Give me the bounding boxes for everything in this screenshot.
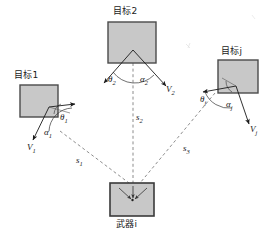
target-1-theta-label: θ1 [60, 112, 68, 124]
range-label-s2: s2 [136, 112, 143, 124]
target-j-theta-label: θj [200, 94, 206, 106]
target-2-box [108, 22, 156, 63]
target-2-alpha-label: α2 [140, 74, 148, 86]
range-label-s1: s1 [76, 155, 83, 167]
target-2-label: 目标2 [113, 4, 137, 17]
weapon-i-group [110, 183, 154, 216]
target-1-box [20, 85, 58, 117]
target-1-alpha-label: α1 [44, 127, 52, 139]
target-1-velocity-label: V1 [27, 142, 36, 154]
weapon-center-dot [131, 199, 133, 201]
range-line-s1 [60, 131, 129, 183]
artifact-mark-top-right [252, 15, 255, 19]
target-1-label: 目标1 [14, 68, 38, 81]
target-2-theta-label: θ2 [108, 74, 116, 86]
diagram-canvas: 目标1 目标2 目标j 武器i θ1 α1 V1 θ2 α2 V2 θj αj … [0, 0, 276, 236]
range-label-s3: s3 [183, 143, 190, 155]
target-j-alpha-label: αj [226, 99, 233, 111]
target-2-velocity-label: V2 [166, 84, 175, 96]
artifact-mark-upper-right [186, 43, 190, 48]
weapon-i-label: 武器i [116, 217, 137, 230]
target-j-label: 目标j [221, 44, 242, 57]
target-j-velocity-label: Vj [250, 124, 257, 136]
range-line-s3 [140, 93, 215, 183]
target-j-group [203, 60, 258, 124]
